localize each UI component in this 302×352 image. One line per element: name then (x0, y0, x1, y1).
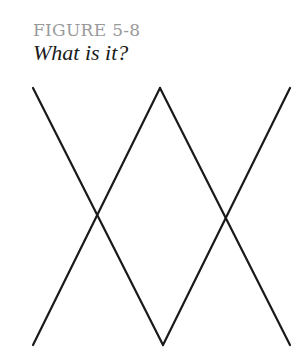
ambiguous-line-drawing (0, 0, 302, 352)
